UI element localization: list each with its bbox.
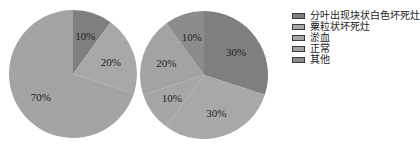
pie-charts: 10%20%70% 30%30%10%20%10%	[0, 0, 290, 150]
legend-item-miliary-necrosis: 粟粒状坏死灶	[292, 21, 420, 32]
legend-label: 粟粒状坏死灶	[310, 21, 370, 32]
legend-swatch	[292, 46, 305, 52]
slice-label: 10%	[182, 31, 202, 43]
legend-item-other: 其他	[292, 54, 420, 65]
pie-chart-right: 30%30%10%20%10%	[140, 11, 268, 139]
slice-label: 30%	[206, 107, 226, 119]
legend-item-congestion: 淤血	[292, 32, 420, 43]
slice-label: 30%	[226, 46, 246, 58]
legend-label: 正常	[310, 43, 330, 54]
slice-label: 20%	[156, 57, 176, 69]
slice-label: 70%	[31, 91, 51, 103]
legend-label: 分叶出现块状白色坏死灶	[310, 10, 420, 21]
slice-label: 10%	[75, 30, 95, 42]
legend: 分叶出现块状白色坏死灶 粟粒状坏死灶 淤血 正常 其他	[292, 10, 420, 65]
legend-swatch	[292, 57, 305, 63]
legend-swatch	[292, 35, 305, 41]
legend-item-lobe-necrosis: 分叶出现块状白色坏死灶	[292, 10, 420, 21]
legend-label: 淤血	[310, 32, 330, 43]
legend-label: 其他	[310, 54, 330, 65]
pie-chart-left: 10%20%70%	[9, 10, 137, 138]
legend-swatch	[292, 24, 305, 30]
legend-item-normal: 正常	[292, 43, 420, 54]
legend-swatch	[292, 13, 305, 19]
slice-label: 10%	[162, 92, 182, 104]
slice-label: 20%	[101, 56, 121, 68]
